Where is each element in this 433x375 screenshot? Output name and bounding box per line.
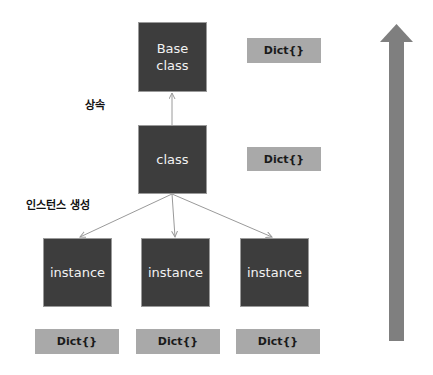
up-arrow-icon — [380, 24, 413, 341]
instance-creation-label: 인스턴스 생성 — [26, 196, 90, 212]
class-node: class — [138, 125, 207, 194]
instance-dict: Dict{} — [35, 329, 119, 354]
base-class-node: Base class — [138, 22, 207, 92]
class-dict: Dict{} — [247, 147, 321, 171]
instance-node: instance — [43, 238, 112, 307]
connectors — [0, 0, 433, 375]
instance-node: instance — [141, 238, 210, 307]
instance-dict: Dict{} — [136, 329, 220, 354]
inheritance-label: 상속 — [85, 96, 105, 112]
instance-node: instance — [240, 238, 309, 307]
instance-dict: Dict{} — [236, 329, 320, 354]
base-class-dict: Dict{} — [247, 38, 321, 63]
